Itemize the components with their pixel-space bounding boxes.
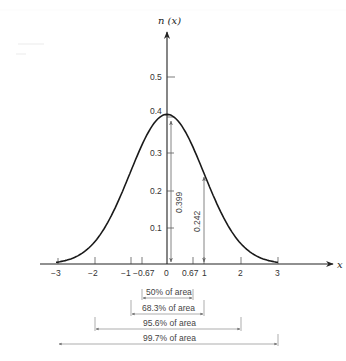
one-sigma-height-dimension: 0.242 <box>192 177 204 262</box>
one-sigma-value-label: 0.242 <box>192 210 202 232</box>
interval-95-6: 95.6% of area <box>95 317 241 331</box>
area-intervals: 50% of area 68.3% of area 95.6% of area … <box>59 287 278 346</box>
x-tick-label: 0.67 <box>182 268 199 278</box>
y-tick-label: 0.4 <box>150 106 162 116</box>
interval-label: 68.3% of area <box>142 303 195 313</box>
interval-68-3: 68.3% of area <box>131 300 204 316</box>
x-tick-label: −3 <box>51 268 61 278</box>
interval-99-7: 99.7% of area <box>59 333 278 346</box>
x-axis-title: x <box>337 259 343 270</box>
x-tick-label: −2 <box>88 268 98 278</box>
normal-distribution-figure: n (x) 0.1 0.2 0.3 0.4 0.5 x −3 −2 −1 −0.… <box>0 0 346 361</box>
x-tick-label: 2 <box>238 268 243 278</box>
y-axis: n (x) 0.1 0.2 0.3 0.4 0.5 <box>150 15 181 264</box>
y-axis-title: n (x) <box>158 15 181 26</box>
y-tick-label: 0.2 <box>150 186 162 196</box>
x-tick-label: −1 <box>121 268 131 278</box>
interval-label: 99.7% of area <box>143 333 196 343</box>
interval-label: 95.6% of area <box>143 318 196 328</box>
y-tick-label: 0.3 <box>150 148 162 158</box>
interval-50: 50% of area <box>142 287 193 300</box>
peak-height-dimension: 0.399 <box>171 121 184 262</box>
x-axis: x −3 −2 −1 −0.67 0 0.67 1 2 3 <box>40 257 343 278</box>
x-tick-label: 0 <box>164 268 169 278</box>
y-tick-label: 0.1 <box>150 223 162 233</box>
x-tick-label: 3 <box>275 268 280 278</box>
peak-value-label: 0.399 <box>174 191 184 213</box>
x-tick-label: −0.67 <box>133 268 155 278</box>
x-tick-label: 1 <box>202 268 207 278</box>
interval-label: 50% of area <box>146 287 192 297</box>
y-tick-label: 0.5 <box>150 72 162 82</box>
